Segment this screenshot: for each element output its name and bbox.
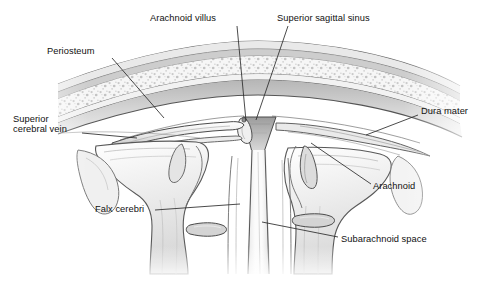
label-arachnoid-villus: Arachnoid villus [150,13,216,23]
label-arachnoid: Arachnoid [373,181,415,191]
subarachnoid-vessel-left [186,223,226,237]
fade-left [0,0,88,282]
label-superior-cerebral-vein-line2: cerebral vein [13,124,67,134]
label-periosteum: Periosteum [47,46,95,56]
leader-superior-cerebral-vein [82,133,137,138]
label-superior-cerebral-vein: Superiorcerebral vein [13,114,67,135]
label-subarachnoid-space: Subarachnoid space [341,234,427,244]
label-falx-cerebri: Falx cerebri [95,204,144,214]
fade-bottom [0,246,488,282]
label-superior-sagittal-sinus: Superior sagittal sinus [277,13,370,23]
subarachnoid-vessel-right [292,214,334,228]
label-superior-cerebral-vein-line1: Superior [13,114,67,124]
label-dura-mater: Dura mater [421,106,468,116]
